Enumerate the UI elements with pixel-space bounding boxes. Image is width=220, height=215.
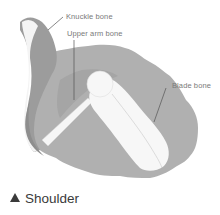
- shoulder-illustration: Knuckle bone Upper arm bone Blade bone S…: [0, 0, 220, 215]
- upper-arm-bone-label: Upper arm bone: [67, 29, 123, 38]
- blade-bone-label: Blade bone: [172, 81, 211, 90]
- knuckle-bone-label: Knuckle bone: [66, 12, 113, 21]
- triangle-up-icon: [10, 193, 20, 202]
- knuckle-bone-leader: [48, 17, 63, 30]
- figure-caption: Shoulder: [10, 191, 79, 206]
- caption-text: Shoulder: [25, 191, 79, 206]
